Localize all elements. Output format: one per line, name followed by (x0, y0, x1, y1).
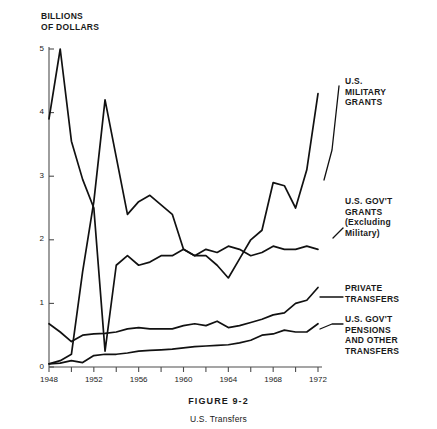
series-line-3 (49, 324, 318, 364)
y-tick-label: 2 (30, 234, 44, 243)
series-line-0 (49, 94, 318, 364)
x-tick-label: 1964 (213, 375, 243, 384)
y-tick-label: 5 (30, 44, 44, 53)
x-tick-label: 1960 (169, 375, 199, 384)
series-label-private-transfers: PRIVATE TRANSFERS (345, 283, 399, 304)
series-label-us-govt-pensions: U.S. GOV'T PENSIONS AND OTHER TRANSFERS (345, 314, 399, 356)
x-tick-label: 1968 (258, 375, 288, 384)
figure-caption-title: FIGURE 9-2 (0, 396, 437, 406)
series-label-us-govt-grants: U.S. GOV'T GRANTS (Excluding Military) (345, 196, 393, 238)
label-leader-line-0 (324, 86, 339, 180)
x-tick-label: 1956 (124, 375, 154, 384)
series-label-us-military-grants: U.S. MILITARY GRANTS (345, 76, 386, 108)
y-tick-label: 4 (30, 107, 44, 116)
figure-caption: FIGURE 9-2 U.S. Transfers (0, 396, 437, 424)
x-tick-label: 1948 (34, 375, 64, 384)
x-tick-label: 1952 (79, 375, 109, 384)
figure-caption-subtitle: U.S. Transfers (0, 414, 437, 424)
y-tick-label: 1 (30, 298, 44, 307)
series-line-1 (49, 49, 318, 351)
x-tick-label: 1972 (303, 375, 333, 384)
label-leader-line-3 (320, 324, 343, 329)
series-line-2 (49, 288, 318, 342)
y-tick-label: 0 (30, 362, 44, 371)
y-tick-label: 3 (30, 171, 44, 180)
label-leader-line-1 (333, 228, 343, 238)
figure-container: BILLIONSOF DOLLARS U.S. MILITARY GRANTS … (0, 0, 437, 429)
